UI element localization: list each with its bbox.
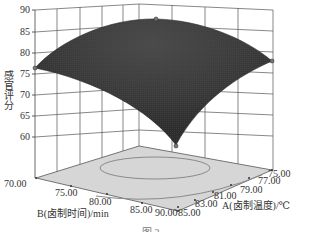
svg-text:79.00: 79.00 bbox=[240, 184, 263, 195]
response-surface bbox=[35, 19, 272, 145]
point-right bbox=[270, 59, 274, 63]
svg-text:70: 70 bbox=[20, 89, 30, 100]
b-axis-title: B(卤制时间)/min bbox=[37, 207, 109, 220]
svg-text:90.00: 90.00 bbox=[155, 207, 178, 218]
svg-text:80.00: 80.00 bbox=[89, 196, 112, 207]
response-surface-chart: 90 85 80 75 70 65 60 感官评分 70.00 75.00 80… bbox=[0, 0, 315, 232]
svg-text:65: 65 bbox=[20, 110, 30, 121]
svg-text:80: 80 bbox=[20, 47, 30, 58]
svg-text:90: 90 bbox=[20, 4, 30, 15]
svg-text:60: 60 bbox=[20, 131, 30, 142]
svg-text:85.00: 85.00 bbox=[178, 207, 201, 218]
z-tick-labels: 90 85 80 75 70 65 60 bbox=[20, 4, 30, 142]
point-bottom bbox=[174, 144, 178, 148]
point-left bbox=[33, 66, 37, 70]
svg-text:85: 85 bbox=[20, 26, 30, 37]
svg-text:70.00: 70.00 bbox=[4, 178, 27, 189]
z-axis-title: 感官评分 bbox=[3, 69, 14, 111]
a-axis-title: A(卤制温度)/℃ bbox=[222, 199, 290, 212]
svg-text:85.00: 85.00 bbox=[130, 204, 153, 215]
svg-text:75.00: 75.00 bbox=[55, 187, 78, 198]
figure-caption: 图 3- bbox=[142, 227, 163, 232]
svg-text:75: 75 bbox=[20, 68, 30, 79]
z-axis-ticks bbox=[32, 10, 35, 137]
point-top bbox=[154, 17, 158, 21]
